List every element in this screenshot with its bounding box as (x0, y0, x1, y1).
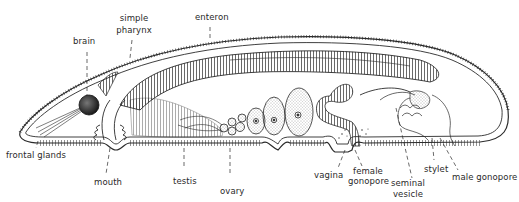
label-simple: simple (114, 13, 154, 23)
label-mouth: mouth (94, 177, 122, 187)
brain (79, 95, 99, 115)
label-seminal: seminal (388, 178, 428, 188)
label-stylet: stylet (424, 164, 448, 174)
label-ovary: ovary (220, 186, 244, 196)
label-pharynx: pharynx (114, 25, 154, 35)
label-male-gonopore: male gonopore (452, 172, 517, 182)
ovary (220, 88, 313, 136)
leader-lines (36, 27, 458, 178)
frontal-nerves (36, 108, 82, 137)
label-enteron: enteron (195, 12, 229, 22)
label-female: female (348, 166, 388, 176)
label-testis: testis (173, 176, 197, 186)
label-frontal-glands: frontal glands (6, 150, 66, 160)
testis (130, 98, 223, 137)
label-vesicle: vesicle (388, 189, 428, 199)
label-brain: brain (73, 36, 95, 46)
label-simple-pharynx: simple pharynx (114, 13, 154, 35)
label-seminal-vesicle: seminal vesicle (388, 178, 428, 199)
label-female-gonopore: female gonopore (348, 166, 388, 186)
label-vagina: vagina (314, 170, 343, 180)
flatworm-diagram: brain simple pharynx enteron frontal gla… (0, 0, 519, 202)
label-gonopore: gonopore (348, 176, 388, 186)
